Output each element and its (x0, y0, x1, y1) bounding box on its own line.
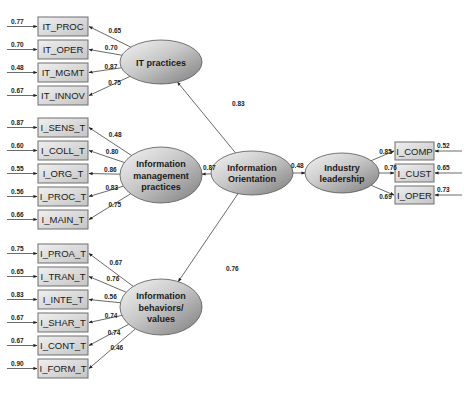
indicator-label: I_PROC_T (40, 191, 87, 202)
latent-il (305, 153, 379, 193)
indicator-label: I_CUST (398, 168, 432, 179)
loading-value: 0.56 (104, 293, 117, 300)
latent-label: Information (227, 163, 277, 173)
loading-value: 0.70 (105, 44, 118, 51)
indicator-label: I_ORG_T (43, 168, 84, 179)
path-coefficient: 0.87 (203, 164, 216, 171)
loading-value: 0.83 (105, 184, 118, 191)
indicator-label: I_SHAR_T (40, 317, 86, 328)
latent-label: behaviors/ (138, 303, 184, 313)
loading-value: 0.48 (109, 131, 122, 138)
loading-value: 0.74 (108, 329, 121, 336)
loading-value: 0.75 (108, 79, 121, 86)
loading-value: 0.65 (109, 27, 122, 34)
error-value: 0.48 (11, 64, 24, 71)
latent-label: leadership (319, 174, 365, 184)
error-value: 0.77 (11, 18, 24, 25)
error-value: 0.73 (437, 186, 450, 193)
latent-io (211, 151, 293, 195)
loading-value: 0.69 (379, 193, 392, 200)
loading-value: 0.85 (379, 148, 392, 155)
indicator-label: I_COMP (396, 146, 432, 157)
error-value: 0.83 (11, 291, 24, 298)
error-value: 0.56 (11, 188, 24, 195)
error-value: 0.67 (11, 87, 24, 94)
structural-path (178, 82, 236, 153)
path-coefficient: 0.76 (226, 265, 239, 272)
loading-value: 0.76 (107, 275, 120, 282)
loading-value: 0.67 (110, 259, 123, 266)
indicator-label: IT_MGMT (42, 67, 85, 78)
indicator-label: IT_INNOV (41, 90, 85, 101)
loading-value: 0.86 (104, 166, 117, 173)
loading-value: 0.74 (105, 312, 118, 319)
loading-value: 0.80 (106, 148, 119, 155)
error-value: 0.65 (437, 164, 450, 171)
error-value: 0.67 (11, 337, 24, 344)
latent-label: values (147, 314, 175, 324)
error-value: 0.87 (11, 119, 24, 126)
loading-arrow (89, 300, 120, 303)
sem-path-diagram: IT practicesInformationmanagementpractic… (0, 0, 469, 395)
indicator-label: I_TRAN_T (41, 271, 86, 282)
indicator-label: I_COLL_T (41, 145, 85, 156)
indicator-label: I_CONT_T (40, 340, 86, 351)
error-value: 0.66 (11, 211, 24, 218)
indicator-label: I_PROA_T (40, 248, 86, 259)
latent-label: Orientation (228, 174, 276, 184)
error-value: 0.52 (437, 142, 450, 149)
error-value: 0.75 (11, 245, 24, 252)
latent-label: practices (141, 182, 181, 192)
latent-label: Industry (324, 163, 360, 173)
latent-label: IT practices (136, 58, 186, 68)
indicator-label: IT_PROC (42, 21, 83, 32)
indicator-label: I_FORM_T (40, 363, 87, 374)
path-coefficient: 0.83 (232, 100, 245, 107)
indicator-label: I_OPER (397, 190, 432, 201)
path-coefficient: 0.48 (291, 162, 304, 169)
latent-label: Information (136, 291, 186, 301)
indicator-label: I_SENS_T (41, 122, 86, 133)
loading-value: 0.76 (384, 164, 397, 171)
latent-label: management (133, 171, 189, 181)
latent-label: Information (136, 159, 186, 169)
labels-layer: IT practicesInformationmanagementpractic… (11, 18, 450, 375)
error-value: 0.70 (11, 41, 24, 48)
indicator-label: I_MAIN_T (42, 214, 85, 225)
error-value: 0.90 (11, 360, 24, 367)
indicator-label: I_INTE_T (43, 294, 84, 305)
loading-value: 0.75 (108, 201, 121, 208)
loading-arrow (89, 174, 120, 175)
error-value: 0.60 (11, 142, 24, 149)
error-value: 0.67 (11, 314, 24, 321)
error-value: 0.55 (11, 165, 24, 172)
loading-value: 0.87 (105, 63, 118, 70)
loading-value: 0.46 (110, 344, 123, 351)
error-value: 0.65 (11, 268, 24, 275)
indicator-label: IT_OPER (43, 44, 84, 55)
